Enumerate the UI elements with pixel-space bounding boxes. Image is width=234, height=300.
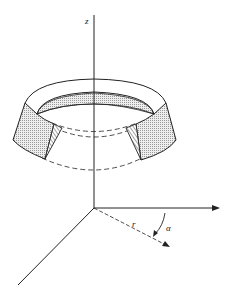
z-axis-label: z — [84, 16, 89, 26]
y-axis — [18, 208, 94, 285]
ring-inner-surface — [37, 93, 154, 114]
alpha-label: α — [166, 223, 171, 233]
alpha-arc — [155, 213, 165, 234]
r-label: r — [132, 219, 136, 229]
ring-right-outer-face — [136, 103, 176, 160]
r-direction — [94, 208, 166, 245]
diagram-canvas: z r α — [0, 0, 234, 300]
ring-bottom-hidden-edge — [42, 158, 142, 170]
x-axis-arrowhead — [212, 205, 220, 211]
